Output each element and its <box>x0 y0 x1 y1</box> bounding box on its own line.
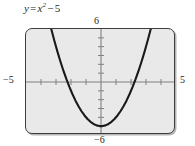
x-max-label: 5 <box>180 74 185 85</box>
equation-equals: = <box>29 2 37 14</box>
plot-frame <box>25 28 175 134</box>
x-min-label: −5 <box>3 74 14 85</box>
graph-figure: y=x2−5 <box>0 0 195 146</box>
equation-operator: − <box>46 2 54 14</box>
y-max-label: 6 <box>94 15 99 26</box>
equation-label: y=x2−5 <box>24 2 60 14</box>
axes-group <box>26 29 175 134</box>
equation-constant: 5 <box>55 2 61 14</box>
plot-canvas <box>26 29 175 134</box>
y-min-label: −6 <box>94 134 105 145</box>
